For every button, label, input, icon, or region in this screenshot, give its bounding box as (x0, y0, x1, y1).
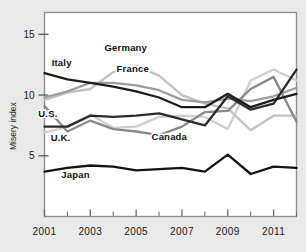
line-chart: Misery index 51015 200120032005200720092… (0, 0, 306, 252)
series-label-italy: Italy (52, 57, 73, 68)
plot-area (45, 13, 297, 217)
series-label-us: U.S. (38, 108, 57, 119)
x-tick-label: 2001 (33, 226, 57, 237)
y-tick-label: 10 (23, 90, 35, 101)
x-tick-label: 2007 (170, 226, 194, 237)
y-axis-title: Misery index (8, 102, 18, 150)
series-label-canada: Canada (152, 131, 188, 142)
series-label-france: France (117, 63, 149, 74)
series-label-japan: Japan (61, 169, 89, 180)
x-tick-label: 2009 (216, 226, 240, 237)
y-tick-label: 5 (29, 150, 35, 161)
x-tick-label: 2011 (262, 226, 285, 237)
x-tick-label: 2003 (78, 226, 102, 237)
series-label-uk: U.K. (51, 132, 71, 143)
series-label-germany: Germany (105, 42, 148, 53)
x-tick-label: 2005 (124, 226, 148, 237)
chart-figure: Misery index 51015 200120032005200720092… (0, 0, 306, 252)
y-tick-label: 15 (23, 29, 35, 40)
